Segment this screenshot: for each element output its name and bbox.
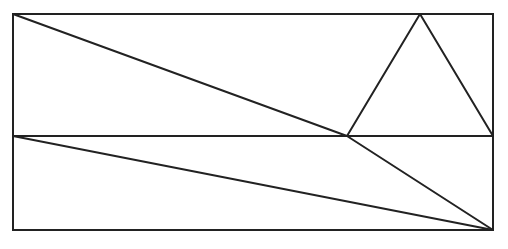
outer-rectangle	[13, 14, 493, 230]
diagram-segments	[13, 14, 493, 230]
diagonal-a-to-p	[13, 14, 347, 136]
triangle-right-side	[420, 14, 493, 136]
geometry-diagram	[0, 0, 508, 249]
triangle-left-side	[347, 14, 420, 136]
